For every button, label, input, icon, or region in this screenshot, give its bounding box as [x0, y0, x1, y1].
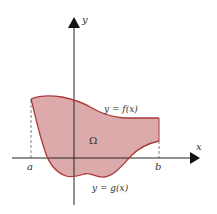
curve-g-label: y = g(x): [91, 183, 129, 193]
x-axis-label: x: [196, 141, 202, 152]
bound-b-label: b: [155, 161, 161, 172]
bound-a-label: a: [27, 161, 33, 172]
y-axis-label: y: [81, 14, 88, 25]
diagram-canvas: y x a b y = f(x) y = g(x) Ω: [0, 0, 217, 214]
x-axis-arrow-icon: [190, 152, 200, 164]
region-diagram: y x a b y = f(x) y = g(x) Ω: [0, 0, 217, 214]
curve-f-label: y = f(x): [103, 104, 138, 114]
region-label: Ω: [89, 135, 97, 146]
y-axis-arrow-icon: [68, 17, 80, 28]
